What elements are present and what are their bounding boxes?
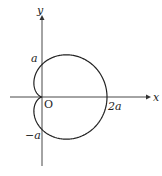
tick-label-neg-a: −a [25,129,41,142]
origin-label: O [44,98,53,111]
y-axis-label: y [36,4,44,17]
x-axis-label: x [153,91,160,104]
tick-label-a: a [31,52,38,65]
tick-label-2a: 2a [107,100,122,113]
x-axis-arrow-icon [146,95,151,100]
cardioid-diagram: y x O a −a 2a [0,0,162,176]
